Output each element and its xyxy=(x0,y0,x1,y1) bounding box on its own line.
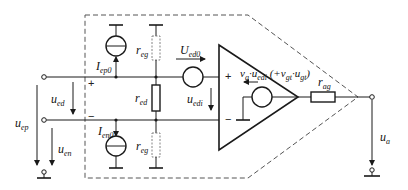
controlled-source-icon xyxy=(236,82,298,120)
label-gain-expression: vg·uedi (+vgt·ugt) xyxy=(240,68,310,82)
output-terminal xyxy=(370,95,375,100)
label-uep: uep xyxy=(15,117,29,132)
input-minus-sign: − xyxy=(88,111,94,122)
label-ua: ua xyxy=(380,131,390,146)
opamp-plus-sign: + xyxy=(225,71,231,82)
label-uen: uen xyxy=(58,143,72,158)
label-ued0: Ued0 xyxy=(180,44,200,59)
circuit-diagram: Iep0 Ien0 reg reg red Ued0 uedi ued uep … xyxy=(0,0,408,190)
opamp-minus-sign: − xyxy=(225,114,231,125)
label-ued: ued xyxy=(51,93,65,108)
output-ground-icon xyxy=(364,168,380,176)
input-terminal-plus xyxy=(42,75,47,80)
input-ground-icon xyxy=(37,170,51,178)
label-reg-top: reg xyxy=(136,44,148,59)
label-ien0: Ien0 xyxy=(98,125,114,140)
label-rag: rag xyxy=(318,76,331,91)
resistor-red-icon xyxy=(152,77,160,122)
resistor-reg-bottom-icon xyxy=(149,120,163,168)
input-plus-sign: + xyxy=(88,78,94,89)
label-iep0: Iep0 xyxy=(96,60,112,75)
label-reg-bottom: reg xyxy=(136,140,148,155)
resistor-rag-icon xyxy=(298,92,370,102)
resistor-reg-top-icon xyxy=(149,25,163,79)
label-uedi: uedi xyxy=(187,93,203,108)
voltage-source-ued0-icon xyxy=(176,59,205,87)
label-red: red xyxy=(135,92,147,107)
input-terminal-minus xyxy=(42,118,47,123)
